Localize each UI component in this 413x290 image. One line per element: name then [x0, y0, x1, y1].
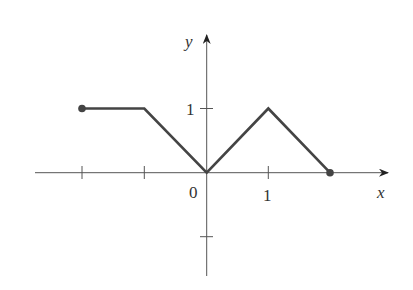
function-graph: y x 0 1 1 — [0, 0, 413, 290]
origin-label: 0 — [189, 183, 198, 202]
function-curve — [82, 109, 330, 173]
y-axis-label: y — [183, 32, 193, 51]
x-axis-label: x — [376, 183, 385, 202]
endpoint-left-closed — [78, 105, 86, 113]
endpoint-right-closed — [326, 169, 334, 177]
x-tick-label-1: 1 — [263, 186, 272, 205]
y-tick-label-1: 1 — [186, 100, 195, 119]
